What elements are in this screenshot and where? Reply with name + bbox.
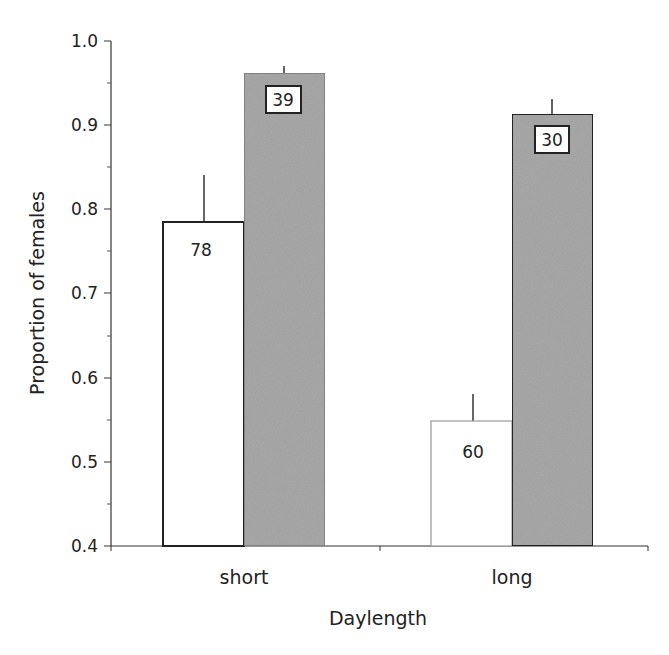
n-label: 78: [190, 240, 212, 260]
n-label: 30: [541, 130, 563, 150]
x-axis: short long Daylength: [111, 546, 648, 629]
n-label: 39: [272, 90, 294, 110]
y-axis: 1.0 0.9 0.8 0.7 0.6 0.5 0.4 Proportion o…: [26, 31, 111, 556]
bar-long-white: [431, 421, 512, 546]
y-tick-label: 0.6: [71, 368, 98, 388]
x-axis-title: Daylength: [329, 607, 427, 629]
y-axis-title: Proportion of females: [26, 191, 48, 395]
bar-group-long: 60 30: [431, 99, 593, 546]
y-tick-label: 0.4: [71, 536, 98, 556]
x-tick-label-short: short: [220, 566, 269, 588]
x-tick-label-long: long: [491, 566, 532, 588]
y-tick-label: 1.0: [71, 31, 98, 51]
bar-chart: 1.0 0.9 0.8 0.7 0.6 0.5 0.4 Proportion o…: [0, 0, 669, 655]
bar-long-gray: [512, 114, 593, 546]
y-tick-label: 0.7: [71, 283, 98, 303]
y-tick-label: 0.5: [71, 452, 98, 472]
n-label: 60: [462, 442, 484, 462]
y-tick-label: 0.9: [71, 115, 98, 135]
y-tick-label: 0.8: [71, 199, 98, 219]
bar-group-short: 78 39: [163, 66, 325, 546]
bar-short-white: [163, 222, 244, 546]
bar-short-gray: [244, 73, 325, 546]
